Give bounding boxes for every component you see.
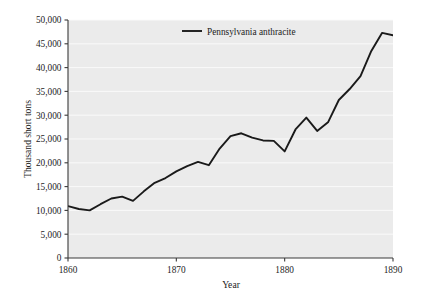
line-chart: 05,00010,00015,00020,00025,00030,00035,0… xyxy=(0,0,448,300)
x-axis-title: Year xyxy=(222,279,240,290)
y-tick-label: 50,000 xyxy=(36,15,62,25)
y-tick-label: 5,000 xyxy=(41,230,62,240)
y-tick-label: 30,000 xyxy=(36,111,62,121)
x-tick-label: 1860 xyxy=(59,265,78,275)
x-tick-label: 1880 xyxy=(275,265,294,275)
y-axis-ticks: 05,00010,00015,00020,00025,00030,00035,0… xyxy=(36,15,68,263)
y-tick-label: 10,000 xyxy=(36,206,62,216)
x-tick-label: 1870 xyxy=(167,265,186,275)
chart-figure: 05,00010,00015,00020,00025,00030,00035,0… xyxy=(0,0,448,300)
y-tick-label: 0 xyxy=(57,253,62,263)
x-axis-ticks: 1860187018801890 xyxy=(59,258,403,275)
y-tick-label: 40,000 xyxy=(36,63,62,73)
legend-label-pennsylvania-anthracite: Pennsylvania anthracite xyxy=(207,27,296,37)
y-tick-label: 35,000 xyxy=(36,87,62,97)
y-tick-label: 15,000 xyxy=(36,182,62,192)
y-tick-label: 20,000 xyxy=(36,158,62,168)
x-tick-label: 1890 xyxy=(384,265,403,275)
y-axis-title: Thousand short tons xyxy=(22,100,33,178)
y-tick-label: 45,000 xyxy=(36,39,62,49)
y-tick-label: 25,000 xyxy=(36,134,62,144)
